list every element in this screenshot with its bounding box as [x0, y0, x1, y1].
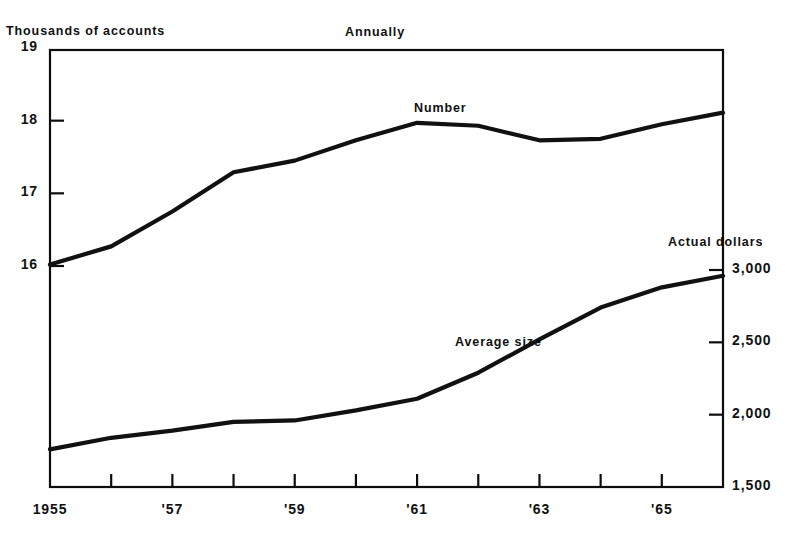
chart-figure: Thousands of accounts Actual dollars Ann… — [0, 0, 785, 538]
series-line-average-size — [50, 276, 723, 450]
plot-frame — [50, 50, 723, 487]
series-paths — [50, 113, 723, 450]
series-line-number — [50, 113, 723, 265]
plot-canvas — [0, 0, 785, 538]
